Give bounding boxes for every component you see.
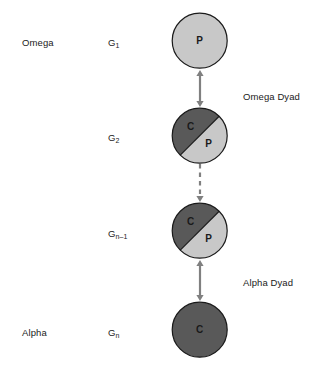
generation-label-base: G (108, 327, 116, 338)
node-gn-1-letter-p: P (206, 233, 213, 244)
connector-alpha-dyad-arrowhead (196, 260, 203, 266)
connector-alpha-dyad-arrowhead (196, 295, 203, 301)
generation-label-base: G (108, 37, 116, 48)
connector-omega-dyad-arrowhead (196, 70, 203, 76)
side-label-omega: Omega (22, 37, 54, 48)
node-g2-letter-p: P (206, 137, 213, 148)
node-gn[interactable]: C (171, 301, 228, 358)
connector-omega-dyad (192, 70, 208, 107)
connector-alpha-dyad (192, 260, 208, 301)
dyad-diagram: PCPCPCOmegaAlphaG1G2Gn–1GnOmega DyadAlph… (0, 0, 333, 369)
generation-label-base: G (108, 132, 116, 143)
node-g2-letter-c: C (187, 120, 194, 131)
node-g1-letter-p: P (197, 35, 204, 46)
generation-label-subscript: 1 (116, 42, 120, 49)
node-gn-letter-c: C (196, 324, 203, 335)
node-gn-1-letter-c: C (187, 216, 194, 227)
dyad-label-alpha-dyad: Alpha Dyad (243, 277, 293, 288)
generation-label-subscript: n (116, 332, 120, 339)
node-g1[interactable]: P (171, 12, 228, 69)
generation-label-g1: G1 (108, 37, 120, 49)
generation-label-subscript: 2 (116, 137, 120, 144)
side-label-alpha: Alpha (22, 327, 47, 338)
generation-label-gn-1: Gn–1 (108, 228, 127, 240)
connector-ellipsis (192, 164, 208, 202)
node-gn-1[interactable]: CP (171, 202, 228, 259)
generation-label-g2: G2 (108, 132, 120, 144)
dyad-label-omega-dyad: Omega Dyad (243, 91, 300, 102)
generation-label-gn: Gn (108, 327, 120, 339)
connector-ellipsis-arrowhead (196, 196, 203, 202)
generation-label-subscript: n–1 (116, 233, 128, 240)
generation-label-base: G (108, 228, 116, 239)
node-g2[interactable]: CP (171, 107, 228, 164)
